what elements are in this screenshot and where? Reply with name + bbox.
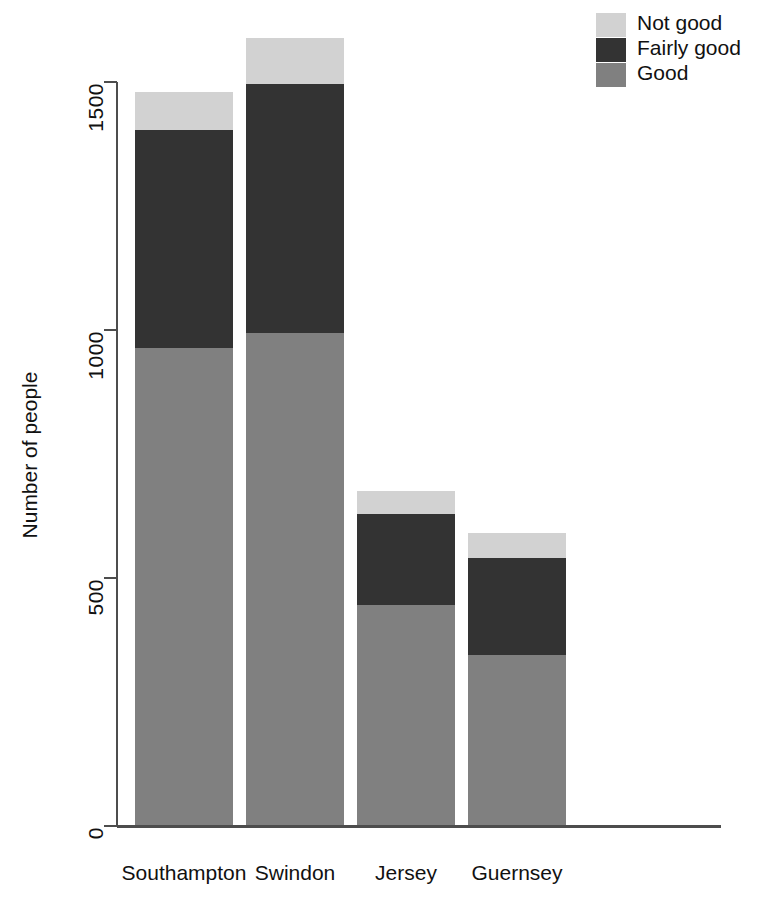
y-axis-tick-label: 0 bbox=[84, 827, 108, 839]
plot-area: 150010005000 Number of people Southampto… bbox=[0, 0, 760, 910]
bar-swindon bbox=[246, 38, 344, 826]
stacked-bar-chart: 150010005000 Number of people Southampto… bbox=[0, 0, 760, 910]
bar-segment-fairly-good bbox=[468, 558, 566, 655]
x-axis-tick-label: Jersey bbox=[375, 861, 437, 885]
y-axis-tick-label: 500 bbox=[84, 579, 108, 616]
bar-southampton bbox=[135, 92, 233, 826]
legend-label: Good bbox=[637, 61, 688, 85]
bar-segment-fairly-good bbox=[135, 130, 233, 348]
bar-segment-not-good bbox=[135, 92, 233, 130]
bar-segment-not-good bbox=[357, 491, 455, 514]
legend-label: Fairly good bbox=[637, 36, 741, 60]
y-axis-tick-label: 1000 bbox=[84, 331, 108, 380]
x-axis-tick-label: Southampton bbox=[122, 861, 247, 885]
legend-swatch bbox=[596, 38, 626, 62]
y-axis-tick-label: 1500 bbox=[84, 83, 108, 132]
bar-guernsey bbox=[468, 533, 566, 826]
legend-label: Not good bbox=[637, 11, 722, 35]
x-axis-line bbox=[117, 825, 721, 828]
y-axis-line bbox=[116, 82, 118, 827]
bar-segment-not-good bbox=[246, 38, 344, 84]
legend-swatch bbox=[596, 13, 626, 37]
bar-segment-fairly-good bbox=[246, 84, 344, 333]
bar-segment-good bbox=[468, 655, 566, 826]
x-axis-tick-label: Guernsey bbox=[471, 861, 562, 885]
bar-segment-fairly-good bbox=[357, 514, 455, 605]
bar-segment-good bbox=[135, 348, 233, 826]
legend-swatch bbox=[596, 63, 626, 87]
bar-jersey bbox=[357, 491, 455, 826]
bar-segment-good bbox=[357, 605, 455, 826]
bar-segment-good bbox=[246, 333, 344, 826]
bar-segment-not-good bbox=[468, 533, 566, 558]
y-axis-title-container: Number of people bbox=[0, 0, 44, 910]
y-axis-title: Number of people bbox=[18, 105, 42, 805]
x-axis-tick-label: Swindon bbox=[255, 861, 336, 885]
